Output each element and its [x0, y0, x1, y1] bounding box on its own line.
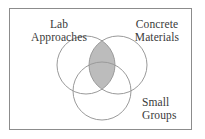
label-small-groups-line2: Groups — [142, 109, 196, 122]
label-small-groups-line1: Small — [142, 96, 196, 109]
label-lab-approaches-line2: Approaches — [22, 31, 96, 44]
label-concrete-materials-line1: Concrete — [120, 18, 194, 31]
label-lab-approaches: Lab Approaches — [22, 18, 96, 43]
label-lab-approaches-line1: Lab — [22, 18, 96, 31]
label-concrete-materials-line2: Materials — [120, 31, 194, 44]
label-small-groups: Small Groups — [142, 96, 196, 121]
label-concrete-materials: Concrete Materials — [120, 18, 194, 43]
venn-diagram-figure: Lab Approaches Concrete Materials Small … — [0, 0, 205, 139]
